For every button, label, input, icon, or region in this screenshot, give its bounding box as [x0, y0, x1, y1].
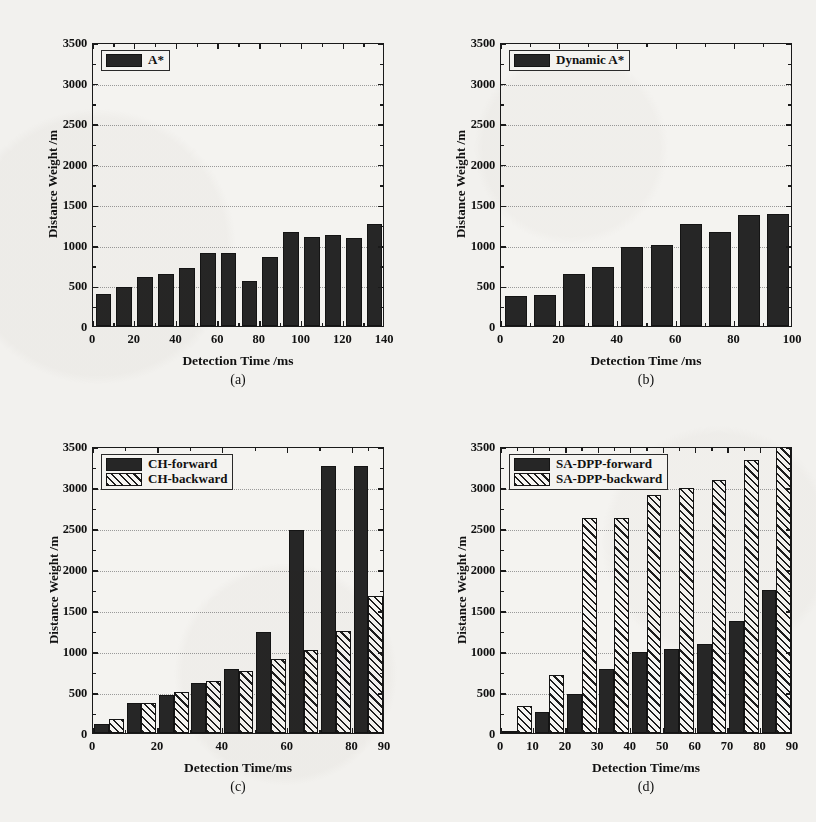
bar — [744, 460, 759, 733]
y-tick-label: 1000 — [471, 238, 495, 253]
bar — [221, 253, 237, 326]
x-tick — [565, 448, 566, 453]
y-tick-label: 0 — [489, 727, 495, 742]
legend-b[interactable]: Dynamic A* — [509, 50, 630, 71]
y-tick-minor — [93, 632, 96, 633]
bar — [614, 518, 629, 733]
y-tick-minor — [788, 145, 791, 146]
bar — [116, 287, 132, 326]
legend-d[interactable]: SA-DPP-forwardSA-DPP-backward — [509, 454, 668, 490]
legend-item: A* — [106, 53, 164, 67]
x-tick-minor — [319, 448, 320, 451]
four-panel-bar-chart-figure: A*05001000150020002500300035000204060801… — [0, 0, 816, 822]
bar — [336, 631, 351, 733]
y-tick — [786, 43, 791, 44]
x-tick-minor — [614, 730, 615, 733]
bar — [200, 253, 216, 326]
x-tick — [630, 728, 631, 733]
y-tick-label: 500 — [69, 686, 87, 701]
y-tick — [378, 529, 383, 530]
bar — [304, 650, 319, 733]
x-tick — [92, 321, 93, 326]
panel-a: A*05001000150020002500300035000204060801… — [0, 0, 408, 411]
y-tick — [378, 84, 383, 85]
y-tick — [93, 246, 98, 247]
y-tick-label: 2500 — [471, 522, 495, 537]
y-tick — [378, 447, 383, 448]
x-tick-minor — [322, 44, 323, 47]
legend-a[interactable]: A* — [101, 50, 170, 71]
bar — [697, 644, 712, 733]
x-tick-minor — [125, 448, 126, 451]
x-tick-label: 100 — [291, 332, 310, 347]
y-tick — [93, 287, 98, 288]
x-tick-minor — [368, 448, 369, 451]
x-tick-label: 80 — [345, 739, 358, 754]
panel-b: Dynamic A*050010001500200025003000350002… — [408, 0, 816, 411]
x-tick-label: 20 — [151, 739, 164, 754]
y-tick — [378, 43, 383, 44]
x-tick — [343, 44, 344, 49]
bar — [592, 267, 614, 326]
panel-caption-d: (d) — [500, 779, 792, 795]
x-tick-minor — [197, 44, 198, 47]
x-tick — [92, 44, 93, 49]
legend-c[interactable]: CH-forwardCH-backward — [101, 454, 233, 490]
x-tick-label: 0 — [497, 739, 503, 754]
y-tick-label: 2500 — [63, 522, 87, 537]
y-tick — [786, 287, 791, 288]
y-tick-minor — [501, 307, 504, 308]
x-tick-label: 20 — [559, 739, 572, 754]
bars-a — [93, 44, 383, 326]
bar — [283, 232, 299, 326]
bar — [325, 235, 341, 326]
x-tick — [617, 44, 618, 49]
bar — [179, 268, 195, 326]
plot-frame-b: Dynamic A* — [500, 43, 792, 327]
plot-frame-c: CH-forwardCH-backward — [92, 447, 384, 734]
y-tick — [786, 206, 791, 207]
x-tick-minor — [190, 730, 191, 733]
y-tick — [93, 611, 98, 612]
x-tick — [598, 728, 599, 733]
bar — [535, 712, 550, 733]
y-tick-minor — [788, 468, 791, 469]
x-tick — [157, 728, 158, 733]
x-tick-minor — [280, 44, 281, 47]
x-tick-label: 90 — [786, 739, 799, 754]
x-tick — [92, 448, 93, 453]
x-tick-label: 40 — [624, 739, 637, 754]
x-tick-minor — [368, 730, 369, 733]
legend-item: CH-backward — [106, 472, 227, 486]
bar — [517, 706, 532, 733]
x-tick-minor — [581, 448, 582, 451]
x-tick — [734, 44, 735, 49]
x-tick-minor — [763, 323, 764, 326]
x-tick — [663, 728, 664, 733]
bar — [679, 488, 694, 733]
y-tick — [501, 570, 506, 571]
bar — [137, 277, 153, 326]
y-tick — [786, 165, 791, 166]
x-tick-minor — [763, 44, 764, 47]
panel-d: SA-DPP-forwardSA-DPP-backward05001000150… — [408, 411, 816, 822]
y-tick-minor — [380, 591, 383, 592]
bar — [621, 247, 643, 326]
x-tick — [222, 728, 223, 733]
x-tick — [695, 448, 696, 453]
x-tick-label: 60 — [688, 739, 701, 754]
y-tick-label: 3000 — [63, 481, 87, 496]
bar — [502, 731, 517, 733]
y-tick-minor — [501, 632, 504, 633]
x-tick-minor — [588, 323, 589, 326]
x-tick — [695, 728, 696, 733]
y-tick — [93, 529, 98, 530]
x-tick — [500, 44, 501, 49]
x-tick — [630, 448, 631, 453]
plot-frame-a: A* — [92, 43, 384, 327]
x-tick-minor — [255, 730, 256, 733]
bar — [96, 294, 112, 326]
x-tick-label: 0 — [89, 332, 95, 347]
plot-area-b: Dynamic A*050010001500200025003000350002… — [500, 43, 792, 327]
y-tick — [501, 287, 506, 288]
